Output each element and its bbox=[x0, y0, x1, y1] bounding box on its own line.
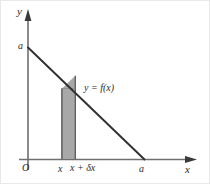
x-tick-label: x bbox=[58, 164, 62, 174]
figure-canvas: y a O x x + δx a x y = f(x) bbox=[0, 0, 210, 184]
x-axis-label: x bbox=[185, 164, 190, 175]
x-intercept-label: a bbox=[139, 164, 144, 174]
y-axis-arrowhead bbox=[25, 9, 32, 21]
function-line bbox=[28, 48, 145, 160]
function-label: y = f(x) bbox=[84, 83, 114, 93]
strip-body bbox=[62, 89, 75, 160]
origin-label: O bbox=[22, 163, 29, 173]
y-intercept-label: a bbox=[18, 41, 23, 51]
y-axis-label: y bbox=[17, 6, 22, 17]
x-plus-delta-x-label: x + δx bbox=[70, 163, 95, 173]
